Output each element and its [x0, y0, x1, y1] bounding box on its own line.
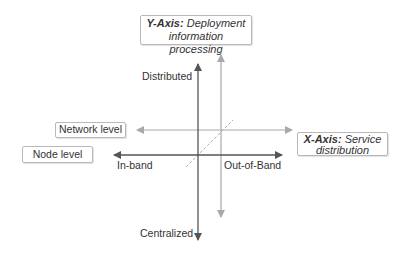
x-axis-label-box: X-Axis: Service distribution	[297, 132, 388, 156]
out-of-band-label: Out-of-Band	[224, 159, 281, 171]
y-axis-description-1: Deployment	[187, 17, 246, 29]
y-axis-label-box: Y-Axis: Deployment information processin…	[140, 15, 252, 45]
centralized-label: Centralized	[140, 227, 193, 239]
distributed-label: Distributed	[142, 70, 192, 82]
in-band-label: In-band	[117, 159, 153, 171]
network-level-box: Network level	[55, 122, 126, 138]
x-axis-description-2: distribution	[298, 145, 387, 156]
node-level-axes	[114, 64, 282, 240]
y-axis-description-2: information processing	[141, 30, 251, 56]
network-level-label: Network level	[59, 123, 122, 135]
y-axis-title: Y-Axis:	[147, 17, 184, 29]
node-level-label: Node level	[33, 148, 83, 160]
node-level-box: Node level	[22, 146, 93, 163]
